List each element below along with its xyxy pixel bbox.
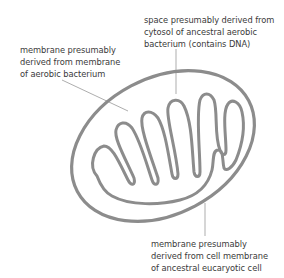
label-line: cytosol of ancestral aerobic: [144, 26, 274, 38]
label-line: derived from membrane: [20, 56, 120, 68]
label-line: membrane presumably: [151, 238, 268, 250]
label-line: membrane presumably: [20, 44, 120, 56]
label-line: of aerobic bacterium: [20, 68, 120, 80]
label-cytosol-space: space presumably derived from cytosol of…: [144, 14, 274, 50]
label-inner-membrane: membrane presumably derived from membran…: [20, 44, 120, 80]
label-line: of ancestral eucaryotic cell: [151, 262, 268, 274]
label-line: derived from cell membrane: [151, 250, 268, 262]
label-line: bacterium (contains DNA): [144, 38, 274, 50]
label-outer-membrane: membrane presumably derived from cell me…: [151, 238, 268, 274]
label-line: space presumably derived from: [144, 14, 274, 26]
